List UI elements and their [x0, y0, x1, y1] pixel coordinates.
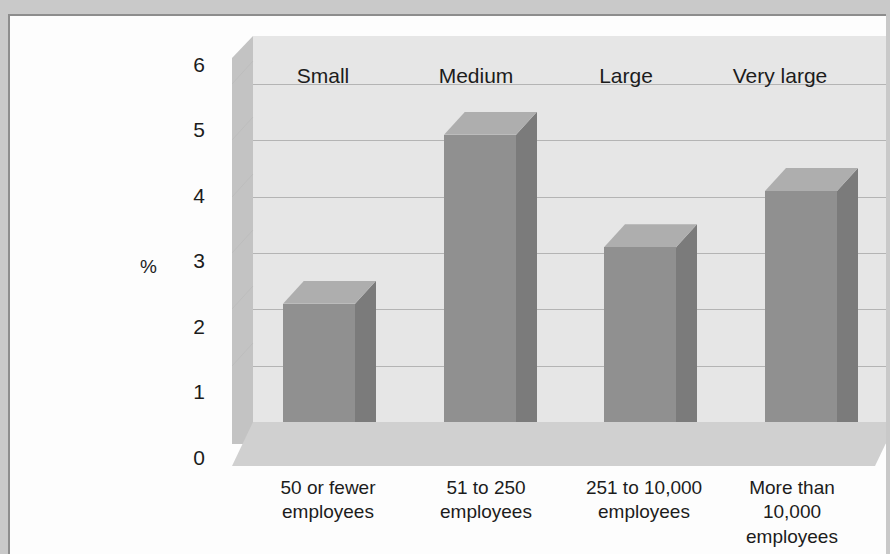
chart-plot-area	[224, 36, 886, 476]
series-label-large: Large	[566, 64, 686, 88]
y-tick-4: 4	[165, 185, 205, 206]
bar-3-side-face	[837, 168, 858, 422]
bar-1-front-face	[444, 135, 516, 422]
y-tick-5: 5	[165, 119, 205, 140]
bar-1-side-face	[516, 112, 537, 422]
y-axis-label: %	[140, 256, 157, 278]
bar-2-side-face	[676, 224, 697, 422]
bar-2-front-face	[604, 247, 676, 422]
bar-2	[604, 224, 697, 422]
scanned-page: 6 5 4 3 2 1 0 % Small Medium Large Very …	[0, 0, 890, 554]
bar-3-front-face	[765, 191, 837, 422]
y-tick-6: 6	[165, 54, 205, 75]
series-label-very-large: Very large	[700, 64, 860, 88]
x-category-label-3: More than 10,000 employees	[712, 476, 872, 549]
series-label-small: Small	[258, 64, 388, 88]
bar-0	[283, 281, 376, 422]
bar-3	[765, 168, 858, 422]
y-tick-3: 3	[165, 250, 205, 271]
bar-0-side-face	[355, 281, 376, 422]
y-tick-0: 0	[165, 447, 205, 468]
bar-1	[444, 112, 537, 422]
chart-left-wall	[232, 36, 253, 444]
x-category-label-0: 50 or fewer employees	[248, 476, 408, 525]
x-category-label-2: 251 to 10,000 employees	[554, 476, 734, 525]
bar-0-front-face	[283, 304, 355, 422]
x-category-label-1: 51 to 250 employees	[406, 476, 566, 525]
figure-card: 6 5 4 3 2 1 0 % Small Medium Large Very …	[8, 14, 886, 554]
y-tick-2: 2	[165, 316, 205, 337]
chart-floor	[232, 422, 886, 466]
gridline-5	[253, 140, 886, 141]
y-tick-1: 1	[165, 381, 205, 402]
series-label-medium: Medium	[406, 64, 546, 88]
